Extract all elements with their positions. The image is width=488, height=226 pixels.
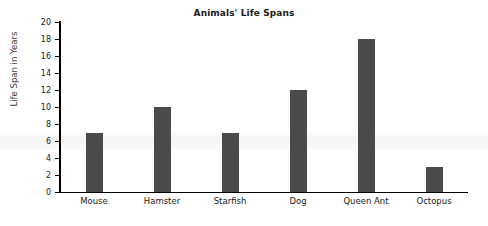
bar-chart: Animals' Life Spans Life Span in Years 2… <box>0 0 488 226</box>
bar <box>426 167 443 193</box>
y-axis-tick <box>55 192 60 193</box>
y-axis-tick-label: 0 <box>11 188 51 197</box>
y-axis-tick-label: 2 <box>11 171 51 180</box>
y-axis-tick <box>55 141 60 142</box>
y-axis-tick-label: 20 <box>11 18 51 27</box>
y-axis-tick-label: 14 <box>11 69 51 78</box>
chart-title: Animals' Life Spans <box>0 8 488 18</box>
y-axis-tick-label: 10 <box>11 103 51 112</box>
x-axis-tick-label: Queen Ant <box>343 196 388 206</box>
bars-layer <box>60 22 468 192</box>
x-axis-tick-label: Mouse <box>80 196 108 206</box>
y-axis-tick <box>55 56 60 57</box>
x-axis-tick-label: Octopus <box>416 196 451 206</box>
y-axis-tick-label: 18 <box>11 35 51 44</box>
y-axis-tick-label: 16 <box>11 52 51 61</box>
y-axis-tick-label: 6 <box>11 137 51 146</box>
x-axis-tick-label: Hamster <box>144 196 180 206</box>
y-axis-tick <box>55 22 60 23</box>
bar <box>154 107 171 192</box>
bar <box>86 133 103 193</box>
x-axis-tick-label: Starfish <box>214 196 247 206</box>
bar <box>290 90 307 192</box>
y-axis-tick <box>55 175 60 176</box>
bar <box>358 39 375 192</box>
y-axis-tick <box>55 158 60 159</box>
y-axis-tick <box>55 124 60 125</box>
x-axis-tick-labels: MouseHamsterStarfishDogQueen AntOctopus <box>60 196 468 216</box>
y-axis-tick <box>55 73 60 74</box>
y-axis-tick-labels: 20181614121086420 <box>11 0 51 226</box>
y-axis-tick <box>55 90 60 91</box>
y-axis-tick <box>55 107 60 108</box>
bar <box>222 133 239 193</box>
y-axis-tick-label: 12 <box>11 86 51 95</box>
y-axis-tick-label: 4 <box>11 154 51 163</box>
y-axis-tick-label: 8 <box>11 120 51 129</box>
y-axis-tick <box>55 39 60 40</box>
x-axis-tick-label: Dog <box>289 196 306 206</box>
